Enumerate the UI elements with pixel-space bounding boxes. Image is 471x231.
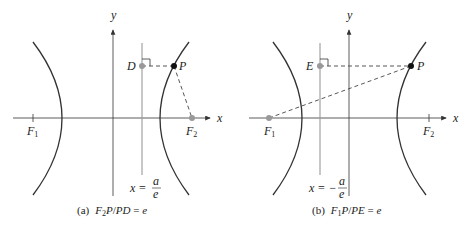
- directrix-numerator: a: [339, 174, 345, 188]
- directrix-equation-lhs: x =: [129, 181, 146, 195]
- x-axis-label: x: [216, 111, 223, 125]
- label-f1: F1: [263, 124, 275, 139]
- focus-f1: [266, 115, 272, 121]
- directrix-numerator: a: [153, 174, 159, 188]
- label-p: P: [178, 59, 187, 73]
- directrix-equation-lhs: x = −: [308, 181, 337, 195]
- hyperbola-left-branch: [33, 42, 62, 195]
- panel-a: y x D P F1 F2 x = a e (a)F2P/PD = e: [13, 8, 223, 218]
- caption-a: (a)F2P/PD = e: [77, 204, 147, 218]
- y-axis-label: y: [346, 8, 353, 22]
- point-p: [171, 63, 177, 69]
- caption-b: (b)F1P/PE = e: [312, 204, 382, 218]
- directrix-denominator: e: [153, 187, 159, 201]
- label-d: D: [126, 59, 136, 73]
- label-f2: F2: [422, 124, 434, 139]
- label-p: P: [416, 59, 425, 73]
- point-d: [139, 63, 145, 69]
- directrix-denominator: e: [339, 187, 345, 201]
- pf1-dashed: [269, 66, 411, 118]
- point-e: [317, 63, 323, 69]
- x-axis-label: x: [452, 111, 459, 125]
- label-f2: F2: [185, 124, 197, 139]
- point-p: [408, 63, 414, 69]
- pf2-dashed: [174, 66, 192, 118]
- hyperbola-directrix-diagram: y x D P F1 F2 x = a e (a)F2P/PD = e y x …: [0, 0, 471, 231]
- focus-f2: [189, 115, 195, 121]
- panel-b: y x E P F1 F2 x = − a e (b)F1P/PE = e: [249, 8, 459, 218]
- hyperbola-left-branch: [273, 42, 302, 195]
- y-axis-label: y: [110, 8, 117, 22]
- label-f1: F1: [26, 124, 38, 139]
- label-e: E: [305, 59, 314, 73]
